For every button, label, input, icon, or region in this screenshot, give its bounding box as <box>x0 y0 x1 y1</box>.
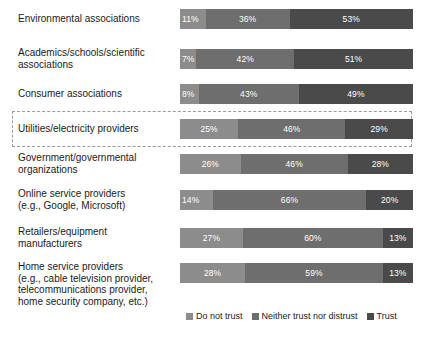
bar-segment-do-not-trust: 26% <box>180 154 241 174</box>
bar-segment-trust: 29% <box>345 119 413 139</box>
chart-legend: Do not trust Neither trust nor distrust … <box>186 311 397 321</box>
bar-segment-neither: 60% <box>243 228 383 248</box>
bar-stack: 25% 46% 29% <box>180 119 413 139</box>
bar-segment-do-not-trust: 27% <box>180 228 243 248</box>
bar-segment-trust: 20% <box>366 190 413 210</box>
bar-segment-trust: 13% <box>383 228 413 248</box>
bar-segment-do-not-trust: 7% <box>180 49 196 69</box>
legend-item-trust: Trust <box>367 311 397 321</box>
bar-segment-do-not-trust: 28% <box>180 263 245 283</box>
legend-item-do-not-trust: Do not trust <box>186 311 243 321</box>
bar-segment-neither: 59% <box>245 263 382 283</box>
bar-segment-neither: 66% <box>213 190 367 210</box>
legend-label: Neither trust nor distrust <box>262 311 358 321</box>
bar-segment-neither: 43% <box>199 84 299 104</box>
category-label: Academics/schools/scientific association… <box>18 47 176 70</box>
category-label: Utilities/electricity providers <box>18 123 176 135</box>
category-label: Retailers/equipment manufacturers <box>18 226 176 249</box>
category-label: Environmental associations <box>18 13 176 25</box>
bar-segment-do-not-trust: 8% <box>180 84 199 104</box>
bar-segment-neither: 46% <box>238 119 345 139</box>
category-label: Home service providers (e.g., cable tele… <box>18 261 176 307</box>
bar-segment-trust: 28% <box>348 154 413 174</box>
category-label: Online service providers (e.g., Google, … <box>18 188 176 211</box>
bar-segment-trust: 53% <box>290 9 413 29</box>
legend-label: Trust <box>377 311 397 321</box>
bar-segment-trust: 49% <box>299 84 413 104</box>
bar-segment-neither: 42% <box>196 49 294 69</box>
stacked-bar-chart: Environmental associations 11% 36% 53% A… <box>0 0 421 340</box>
category-label: Consumer associations <box>18 88 176 100</box>
legend-swatch-icon <box>186 313 193 320</box>
bar-segment-do-not-trust: 11% <box>180 9 206 29</box>
bar-segment-do-not-trust: 25% <box>180 119 238 139</box>
bar-segment-neither: 46% <box>241 154 348 174</box>
bar-stack: 14% 66% 20% <box>180 190 413 210</box>
category-label: Government/governmental organizations <box>18 152 176 175</box>
bar-segment-trust: 51% <box>294 49 413 69</box>
bar-segment-trust: 13% <box>383 263 413 283</box>
bar-stack: 7% 42% 51% <box>180 49 413 69</box>
legend-label: Do not trust <box>196 311 243 321</box>
bar-segment-neither: 36% <box>206 9 290 29</box>
legend-item-neither: Neither trust nor distrust <box>252 311 358 321</box>
bar-segment-do-not-trust: 14% <box>180 190 213 210</box>
bar-stack: 11% 36% 53% <box>180 9 413 29</box>
bar-stack: 26% 46% 28% <box>180 154 413 174</box>
bar-stack: 8% 43% 49% <box>180 84 413 104</box>
bar-stack: 27% 60% 13% <box>180 228 413 248</box>
legend-swatch-icon <box>252 313 259 320</box>
bar-stack: 28% 59% 13% <box>180 263 413 283</box>
legend-swatch-icon <box>367 313 374 320</box>
